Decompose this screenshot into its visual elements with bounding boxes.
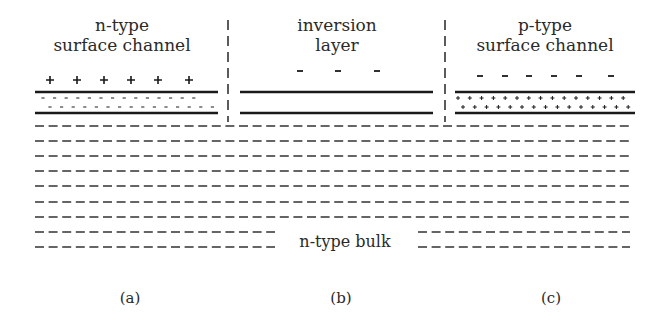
hole-icon [562,96,566,100]
positive-charge-icon [127,76,135,84]
hole-icon [461,105,465,109]
hole-icon [515,96,519,100]
hole-icon [603,105,607,109]
positive-charge-icon [154,76,162,84]
panel-b-title-line2: layer [297,35,377,55]
hole-icon [586,96,590,100]
panel-a-title-line1: n-type [53,15,190,35]
hole-icon [598,96,602,100]
hole-icon [555,105,559,109]
caption-c: (c) [541,289,561,307]
hole-icon [508,105,512,109]
hole-icon [614,105,618,109]
hole-icon [579,105,583,109]
hole-icon [574,96,578,100]
hole-icon [491,96,495,100]
panel-c-title-line1: p-type [476,15,613,35]
hole-icon [532,105,536,109]
panel-a-title-line2: surface channel [53,35,190,55]
hole-icon [550,96,554,100]
hole-icon [496,105,500,109]
caption-a: (a) [120,289,141,307]
positive-charge-icon [100,76,108,84]
hole-icon [485,105,489,109]
panel-c-title-line2: surface channel [476,35,613,55]
hole-icon [468,96,472,100]
caption-b: (b) [330,289,351,307]
panel-a-title: n-type surface channel [53,15,190,55]
hole-icon [520,105,524,109]
panel-c-title: p-type surface channel [476,15,613,55]
hole-icon [621,96,625,100]
positive-charge-icon [46,76,54,84]
hole-icon [626,105,630,109]
panel-b-title: inversion layer [297,15,377,55]
hole-icon [609,96,613,100]
panel-b-title-line1: inversion [297,15,377,35]
hole-icon [527,96,531,100]
hole-icon [567,105,571,109]
bulk-label: n-type bulk [299,232,390,251]
positive-charge-icon [185,76,193,84]
hole-icon [480,96,484,100]
hole-icon [473,105,477,109]
surface-channel-diagram: n-type surface channel inversion layer p… [0,0,664,330]
hole-icon [591,105,595,109]
hole-icon [456,96,460,100]
hole-icon [503,96,507,100]
hole-icon [539,96,543,100]
hole-icon [544,105,548,109]
positive-charge-icon [73,76,81,84]
